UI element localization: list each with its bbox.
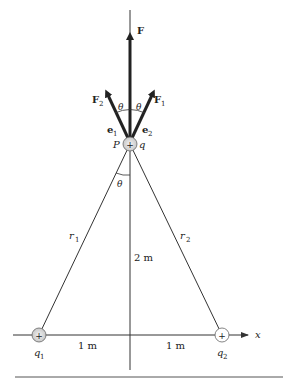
label-theta-left: θ <box>118 102 124 112</box>
label-r1-sub: 1 <box>75 236 79 244</box>
label-q: q <box>139 139 145 150</box>
field-diagram: + + + F F 2 F 1 θ θ e 1 e 2 P q θ r 1 r … <box>0 0 283 385</box>
theta-arc-lower <box>116 173 130 175</box>
charge-q-sign: + <box>126 140 134 150</box>
label-theta-right: θ <box>136 102 142 112</box>
label-left-distance: 1 m <box>78 340 98 351</box>
label-F: F <box>137 25 144 36</box>
charge-q2-sign: + <box>218 331 226 341</box>
charge-q1-sign: + <box>35 331 43 341</box>
label-e1-sub: 1 <box>113 130 117 138</box>
label-F1-sub: 1 <box>161 100 165 108</box>
r1-line <box>39 144 130 335</box>
label-F2-sub: 2 <box>99 100 103 108</box>
label-q2-sub: 2 <box>223 353 227 361</box>
label-r2-sub: 2 <box>186 236 190 244</box>
label-height: 2 m <box>134 252 154 263</box>
label-x-axis: x <box>255 329 261 340</box>
label-e2-sub: 2 <box>148 130 152 138</box>
label-P: P <box>112 139 120 150</box>
r2-line <box>130 144 222 335</box>
label-right-distance: 1 m <box>166 340 186 351</box>
label-theta-lower: θ <box>117 179 123 189</box>
label-q1-sub: 1 <box>40 353 44 361</box>
